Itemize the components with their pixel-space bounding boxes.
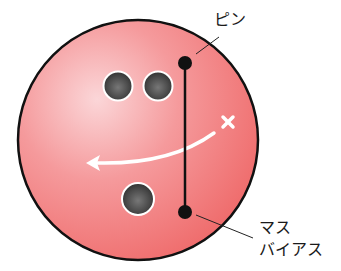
mass-bias-label-line1: マス — [259, 218, 291, 237]
pin-marker — [178, 56, 192, 70]
pin-label: ピン — [214, 10, 246, 29]
bowling-ball — [18, 20, 258, 260]
mass-bias-label-line2: バイアス — [259, 240, 323, 259]
thumb-hole — [122, 183, 154, 215]
finger-hole-left — [104, 72, 133, 101]
mass-bias-marker — [178, 205, 192, 219]
finger-hole-right — [144, 72, 173, 101]
